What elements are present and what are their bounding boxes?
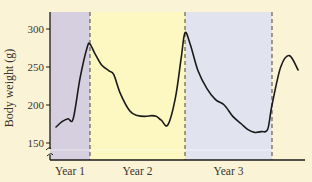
- region-year-3: [185, 12, 272, 160]
- y-tick-label-200: 200: [28, 99, 45, 111]
- y-axis-label: Body weight (g): [2, 49, 16, 128]
- y-tick-label-300: 300: [28, 23, 45, 35]
- x-label-year-2: Year 2: [123, 165, 153, 177]
- x-axis-year-labels: Year 1Year 2Year 3: [55, 165, 244, 177]
- region-year-2: [90, 12, 185, 160]
- body-weight-chart: 150200250300 Year 1Year 2Year 3 Body wei…: [0, 0, 312, 182]
- y-tick-label-250: 250: [28, 61, 45, 73]
- x-label-year-3: Year 3: [214, 165, 244, 177]
- x-label-year-1: Year 1: [55, 165, 85, 177]
- region-year-1: [50, 12, 90, 160]
- year-regions: [50, 12, 272, 160]
- y-tick-label-150: 150: [28, 137, 45, 149]
